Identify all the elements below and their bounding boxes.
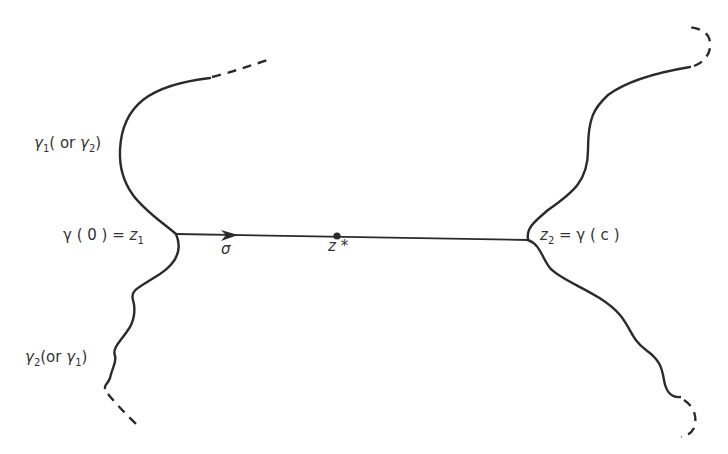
svg-text:γ1( or γ2): γ1( or γ2) <box>34 134 101 154</box>
right-upper-curve-dashed-end <box>688 27 710 66</box>
svg-text:z2 = γ ( c ): z2 = γ ( c ) <box>539 226 620 246</box>
left-upper-curve <box>120 78 210 234</box>
svg-text:γ2(or γ1): γ2(or γ1) <box>25 348 87 368</box>
svg-text:γ ( 0 ) = z1: γ ( 0 ) = z1 <box>63 226 144 246</box>
left-lower-curve-dashed-end <box>108 394 136 424</box>
label-sigma: σ <box>221 240 231 258</box>
label-z-star: z * <box>327 237 349 255</box>
figure-canvas: γ1( or γ2) γ ( 0 ) = z1 γ2(or γ1) σ z * … <box>0 0 728 454</box>
label-start-point: γ ( 0 ) = z1 <box>63 226 144 246</box>
left-lower-curve <box>105 234 179 388</box>
label-gamma1-or-gamma2: γ1( or γ2) <box>34 134 101 154</box>
diagram-svg: γ1( or γ2) γ ( 0 ) = z1 γ2(or γ1) σ z * … <box>0 0 728 454</box>
label-gamma2-or-gamma1: γ2(or γ1) <box>25 348 87 368</box>
right-lower-curve <box>528 240 680 397</box>
left-upper-curve-dashed-end <box>212 59 270 77</box>
right-upper-curve <box>528 67 690 240</box>
label-end-point: z2 = γ ( c ) <box>539 226 620 246</box>
right-lower-curve-dashed-end <box>681 400 695 437</box>
